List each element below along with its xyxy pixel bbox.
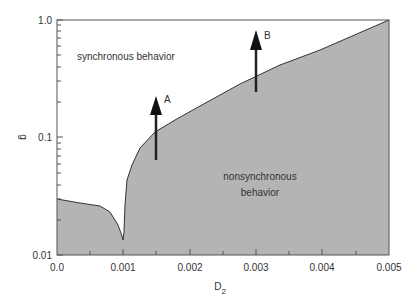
synchronous-label: synchronous behavior bbox=[77, 51, 176, 62]
y-tick-0.1: 0.1 bbox=[38, 132, 52, 143]
x-axis-label: D2 bbox=[214, 281, 226, 296]
arrow-b-label: B bbox=[264, 30, 271, 41]
x-tick-0: 0.0 bbox=[50, 262, 64, 273]
x-tick-3: 0.003 bbox=[243, 262, 268, 273]
x-tick-2: 0.002 bbox=[177, 262, 202, 273]
x-tick-1: 0.001 bbox=[110, 262, 135, 273]
nonsynchronous-label-line1: nonsynchronous bbox=[223, 171, 296, 182]
x-tick-4: 0.004 bbox=[309, 262, 334, 273]
nonsynchronous-label-line2: behavior bbox=[241, 187, 280, 198]
y-axis-label: g bbox=[18, 134, 29, 140]
arrow-a-label: A bbox=[164, 94, 171, 105]
y-tick-1.0: 1.0 bbox=[38, 15, 52, 26]
y-tick-0.01: 0.01 bbox=[33, 250, 53, 261]
x-tick-5: 0.005 bbox=[376, 262, 401, 273]
phase-diagram-chart: 1.0 0.1 0.01 0.0 0.001 0.002 0.003 0.004… bbox=[0, 0, 417, 305]
